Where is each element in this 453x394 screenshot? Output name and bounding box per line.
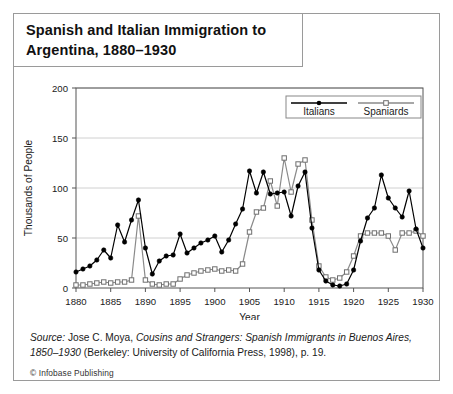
- copyright-line: © Infobase Publishing: [30, 368, 425, 378]
- x-axis-tick-label: 1920: [343, 296, 364, 307]
- data-point: [164, 282, 168, 286]
- data-point: [213, 267, 217, 271]
- x-axis-title: Year: [239, 312, 260, 320]
- data-point: [421, 234, 425, 238]
- data-point: [331, 278, 335, 282]
- data-point: [240, 207, 244, 211]
- data-point: [192, 246, 196, 250]
- x-axis-tick-label: 1915: [308, 296, 329, 307]
- data-point: [296, 162, 300, 166]
- source-publisher: (Berkeley: University of California Pres…: [81, 347, 326, 358]
- data-point: [282, 156, 286, 160]
- series-italians: [74, 169, 425, 288]
- data-point: [268, 192, 272, 196]
- data-point: [220, 269, 224, 273]
- source-work-dates: 1850–1930: [30, 347, 81, 358]
- x-axis-tick-label: 1910: [274, 296, 295, 307]
- data-point: [268, 179, 272, 183]
- chart-plot-area: 0501001502001880188518901895190019051910…: [14, 62, 439, 320]
- data-point: [393, 248, 397, 252]
- data-point: [109, 281, 113, 285]
- data-point: [358, 239, 362, 243]
- data-point: [115, 280, 119, 284]
- data-point: [379, 173, 383, 177]
- data-point: [393, 206, 397, 210]
- data-point: [199, 241, 203, 245]
- data-point: [143, 278, 147, 282]
- data-point: [400, 231, 404, 235]
- data-point: [351, 254, 355, 258]
- y-axis-tick-label: 200: [52, 83, 68, 94]
- x-axis-tick-label: 1900: [204, 296, 225, 307]
- data-point: [310, 226, 314, 230]
- data-point: [372, 231, 376, 235]
- data-point: [275, 204, 279, 208]
- data-point: [150, 282, 154, 286]
- data-point: [379, 231, 383, 235]
- y-axis-tick-label: 50: [57, 233, 68, 244]
- legend-label-italians: Italians: [303, 106, 335, 117]
- data-point: [254, 210, 258, 214]
- data-point: [157, 283, 161, 287]
- data-point: [386, 234, 390, 238]
- x-axis-tick-label: 1930: [412, 296, 433, 307]
- x-axis-tick-label: 1885: [100, 296, 121, 307]
- data-point: [289, 190, 293, 194]
- data-point: [303, 170, 307, 174]
- data-point: [88, 282, 92, 286]
- data-point: [129, 218, 133, 222]
- x-axis-tick-label: 1880: [65, 296, 86, 307]
- data-point: [115, 223, 119, 227]
- data-point: [88, 264, 92, 268]
- data-point: [226, 268, 230, 272]
- data-point: [365, 216, 369, 220]
- data-point: [81, 267, 85, 271]
- data-point: [386, 196, 390, 200]
- data-point: [192, 271, 196, 275]
- data-point: [81, 283, 85, 287]
- data-point: [289, 214, 293, 218]
- data-point: [338, 276, 342, 280]
- legend-label-spaniards: Spaniards: [363, 106, 408, 117]
- data-point: [157, 259, 161, 263]
- data-point: [199, 269, 203, 273]
- figure-container: Spanish and Italian Immigration to Argen…: [0, 0, 453, 394]
- data-point: [185, 273, 189, 277]
- data-point: [331, 283, 335, 287]
- data-point: [150, 272, 154, 276]
- data-point: [213, 234, 217, 238]
- data-point: [206, 268, 210, 272]
- data-point: [220, 250, 224, 254]
- data-point: [407, 231, 411, 235]
- data-point: [95, 258, 99, 262]
- data-point: [102, 248, 106, 252]
- data-point: [254, 191, 258, 195]
- source-citation-box: Source: Jose C. Moya, Cousins and Strang…: [14, 325, 439, 380]
- copyright-icon: ©: [30, 368, 36, 378]
- data-point: [164, 254, 168, 258]
- data-point: [233, 222, 237, 226]
- data-point: [282, 190, 286, 194]
- data-point: [185, 251, 189, 255]
- immigration-line-chart: 0501001502001880188518901895190019051910…: [14, 62, 439, 320]
- data-point: [109, 256, 113, 260]
- data-point: [261, 206, 265, 210]
- data-point: [344, 270, 348, 274]
- data-point: [143, 246, 147, 250]
- source-line: Source: Jose C. Moya, Cousins and Strang…: [30, 331, 425, 361]
- data-point: [233, 269, 237, 273]
- data-point: [240, 262, 244, 266]
- data-point: [275, 191, 279, 195]
- data-point: [74, 270, 78, 274]
- x-axis-tick-label: 1890: [135, 296, 156, 307]
- data-point: [206, 238, 210, 242]
- series-spaniards: [74, 156, 425, 287]
- data-point: [122, 240, 126, 244]
- y-axis-tick-label: 100: [52, 183, 68, 194]
- data-point: [400, 215, 404, 219]
- source-author: Jose C. Moya,: [65, 332, 136, 343]
- data-point: [351, 268, 355, 272]
- data-point: [102, 280, 106, 284]
- data-point: [136, 198, 140, 202]
- data-point: [129, 278, 133, 282]
